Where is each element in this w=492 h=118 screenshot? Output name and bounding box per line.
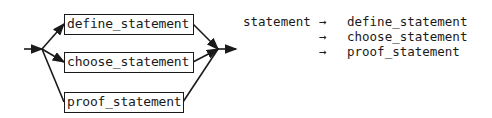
rule-rhs: choose_statement bbox=[347, 29, 467, 44]
alt-define-statement: define_statement bbox=[64, 14, 194, 35]
rule-rhs: proof_statement bbox=[347, 44, 460, 59]
grammar-rule: → proof_statement bbox=[243, 44, 467, 59]
rule-rhs: define_statement bbox=[347, 14, 467, 29]
arrow-icon: → bbox=[319, 29, 347, 44]
grammar-rule: → choose_statement bbox=[243, 29, 467, 44]
alt-proof-statement: proof_statement bbox=[64, 92, 184, 113]
arrow-icon: → bbox=[319, 44, 347, 59]
grammar-rule: statement → define_statement bbox=[243, 14, 467, 29]
grammar-rules: statement → define_statement → choose_st… bbox=[243, 14, 467, 59]
rule-lhs: statement bbox=[243, 14, 319, 29]
syntax-diagram: define_statement choose_statement proof_… bbox=[0, 0, 250, 118]
arrow-icon: → bbox=[319, 14, 347, 29]
alt-choose-statement: choose_statement bbox=[64, 52, 194, 73]
